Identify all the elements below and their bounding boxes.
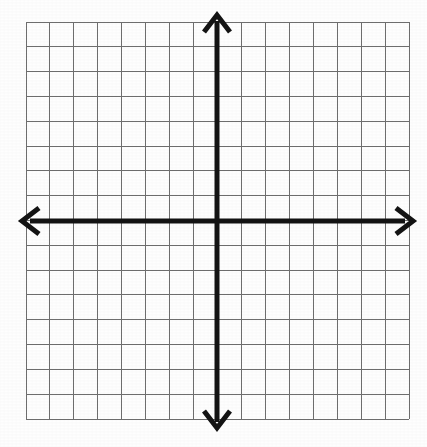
coordinate-grid-figure xyxy=(0,0,427,447)
coordinate-plane-svg xyxy=(0,0,427,447)
